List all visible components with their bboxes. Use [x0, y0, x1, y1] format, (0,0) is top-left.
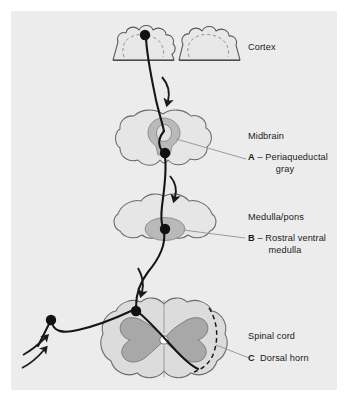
rostral-ventral-medulla-line2: medulla	[244, 245, 326, 257]
periaqueductal-gray-line2: gray	[242, 164, 328, 176]
midbrain-soma	[160, 148, 170, 158]
marker-letter-b: B	[248, 233, 255, 243]
label-dorsal-horn: C Dorsal horn	[248, 353, 309, 365]
label-spinal-cord: Spinal cord	[248, 331, 295, 343]
label-medulla-pons: Medulla/pons	[248, 212, 304, 224]
cortex-soma	[140, 30, 150, 40]
periaqueductal-gray-line1: Periaqueductal	[265, 152, 328, 162]
peripheral-soma	[46, 315, 56, 325]
label-cortex: Cortex	[248, 42, 276, 54]
rostral-ventral-medulla-line1: Rostral ventral	[265, 233, 326, 243]
spinal-soma	[131, 306, 141, 316]
arrow-cortex-to-midbrain	[162, 77, 169, 101]
anatomy-diagram	[0, 0, 348, 406]
label-midbrain: Midbrain	[248, 131, 284, 143]
pathway-medulla-to-spinal	[136, 232, 164, 307]
marker-letter-a: A	[248, 152, 255, 162]
marker-letter-c: C	[248, 353, 255, 363]
dorsal-horn-text: Dorsal horn	[260, 353, 309, 363]
medulla-soma	[160, 224, 170, 234]
label-rostral-ventral-medulla: B – Rostral ventral medulla	[248, 233, 326, 256]
cortex-structure	[113, 26, 240, 61]
label-periaqueductal-gray: A – Periaqueductal gray	[248, 152, 328, 175]
